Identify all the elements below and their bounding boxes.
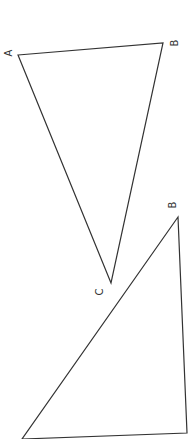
triangle-second xyxy=(22,217,187,439)
triangles-diagram: A B C B xyxy=(0,0,191,439)
vertex-label-c: C xyxy=(94,288,105,295)
vertex-label-b-second: B xyxy=(167,201,178,208)
vertex-label-a: A xyxy=(3,49,14,56)
vertex-label-b: B xyxy=(169,39,180,46)
triangle-abc xyxy=(18,43,163,283)
